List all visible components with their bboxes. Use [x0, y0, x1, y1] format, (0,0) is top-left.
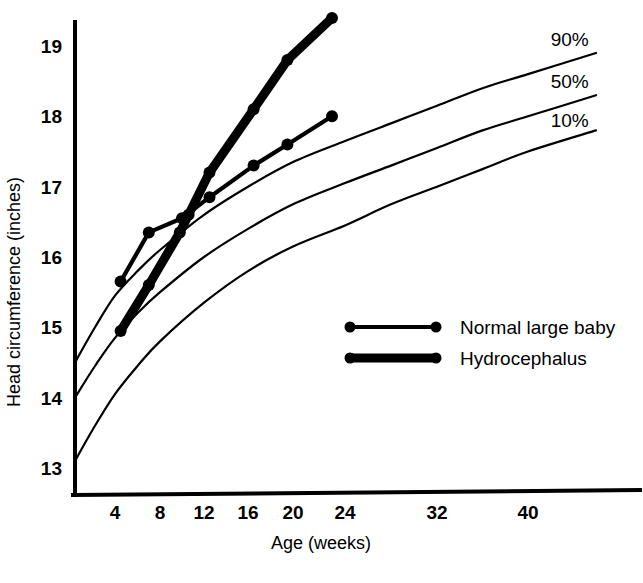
data-point-marker: [143, 226, 155, 238]
legend-marker-start: [345, 353, 356, 364]
chart-legend: Normal large baby Hydrocephalus: [345, 317, 616, 369]
data-point-marker: [326, 12, 338, 24]
x-tick-label: 8: [155, 502, 166, 523]
x-axis-tick-labels: 48121620243240: [110, 502, 539, 523]
y-tick-label: 17: [41, 177, 62, 198]
x-tick-label: 4: [110, 502, 121, 523]
y-axis-tick-labels: 13141516171819: [41, 36, 63, 479]
chart-svg: 13141516171819 48121620243240 90%50%10% …: [0, 0, 643, 583]
legend-item-hydrocephalus: Hydrocephalus: [345, 348, 587, 369]
y-axis-title: Head circumference (inches): [4, 177, 24, 407]
x-tick-label: 20: [282, 502, 303, 523]
data-point-marker: [248, 160, 260, 172]
y-tick-label: 14: [41, 388, 63, 409]
x-tick-label: 16: [237, 502, 258, 523]
y-tick-label: 16: [41, 247, 62, 268]
legend-marker-end: [431, 322, 442, 333]
series-hydrocephalus: [115, 12, 338, 337]
x-tick-label: 40: [517, 502, 538, 523]
data-point-marker: [281, 139, 293, 151]
data-point-marker: [204, 167, 216, 179]
x-axis-line: [73, 490, 640, 495]
data-point-marker: [281, 54, 293, 66]
y-tick-label: 18: [41, 106, 62, 127]
y-tick-label: 15: [41, 317, 63, 338]
x-axis-title: Age (weeks): [271, 533, 371, 553]
data-point-marker: [174, 226, 186, 238]
legend-item-normal-large-baby: Normal large baby: [345, 317, 616, 338]
x-tick-label: 32: [426, 502, 447, 523]
data-point-marker: [183, 209, 195, 221]
y-tick-label: 19: [41, 36, 62, 57]
legend-label-normal-large-baby: Normal large baby: [460, 317, 616, 338]
data-point-marker: [204, 191, 216, 203]
data-point-marker: [143, 279, 155, 291]
data-point-marker: [115, 276, 127, 288]
chart-axes: [73, 22, 640, 495]
legend-marker-start: [345, 322, 356, 333]
percentile-label-10pct: 10%: [551, 110, 589, 131]
percentile-annotations: 90%50%10%: [551, 29, 589, 131]
data-point-marker: [326, 110, 338, 122]
chart-figure: 13141516171819 48121620243240 90%50%10% …: [0, 0, 643, 583]
percentile-label-90pct: 90%: [551, 29, 589, 50]
x-tick-label: 12: [193, 502, 214, 523]
y-tick-label: 13: [41, 458, 62, 479]
patient-series-group: [115, 12, 338, 337]
x-tick-label: 24: [334, 502, 356, 523]
legend-label-hydrocephalus: Hydrocephalus: [460, 348, 587, 369]
data-point-marker: [115, 325, 127, 337]
percentile-label-50pct: 50%: [551, 71, 589, 92]
data-point-marker: [248, 103, 260, 115]
legend-marker-end: [431, 353, 442, 364]
percentile-curve-10th-percentile: [75, 130, 596, 461]
